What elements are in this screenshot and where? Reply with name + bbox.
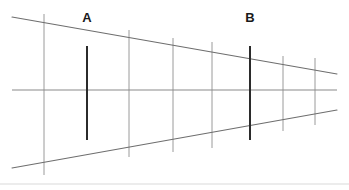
bar-label-b: B: [245, 11, 254, 24]
ponzo-illusion-figure: A B: [0, 0, 349, 190]
figure-background: [0, 0, 349, 190]
illusion-drawing-canvas: [0, 0, 349, 190]
bar-label-a: A: [82, 11, 91, 24]
